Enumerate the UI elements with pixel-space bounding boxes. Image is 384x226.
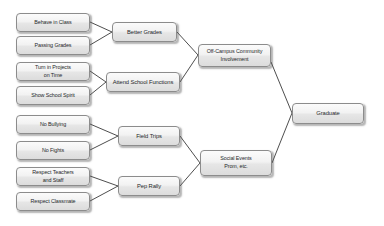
node-respect-classmate[interactable]: Respect Classmate <box>16 192 90 211</box>
node-graduate[interactable]: Graduate <box>292 103 364 124</box>
node-label: No Fights <box>19 147 87 153</box>
node-label-line2: Involvement <box>201 56 268 64</box>
node-label-line2: on Time <box>19 72 87 80</box>
node-label: Better Grades <box>115 29 174 35</box>
wire-respect-teachers-to-pep <box>90 176 118 186</box>
wire-offcampus-to-graduate <box>271 62 292 113</box>
node-label: Behave in Class <box>19 19 87 25</box>
node-label: Social Events <box>203 155 269 163</box>
wire-fights-to-field-trips <box>90 136 118 150</box>
node-label: No Bullying <box>19 121 87 127</box>
node-attend-school-functions[interactable]: Attend School Functions <box>106 72 180 92</box>
node-label: Attend School Functions <box>109 79 177 85</box>
flowchart-canvas: Behave in Class Passing Grades Turn in P… <box>0 0 384 226</box>
node-show-school-spirit[interactable]: Show School Spirit <box>16 86 90 105</box>
node-turn-in-projects-on-time[interactable]: Turn in Projects on Time <box>16 62 90 81</box>
node-no-fights[interactable]: No Fights <box>16 141 90 160</box>
node-behave-in-class[interactable]: Behave in Class <box>16 13 90 32</box>
node-label: Field Trips <box>121 133 177 139</box>
node-off-campus-community-involvement[interactable]: Off-Campus Community Involvement <box>198 44 271 67</box>
wire-better-grades-to-offcampus <box>177 32 198 55</box>
node-pep-rally[interactable]: Pep Rally <box>118 176 180 196</box>
wire-field-trips-to-social <box>180 136 200 163</box>
node-label-line2: and Staff <box>19 177 87 185</box>
wire-spirit-to-attend <box>90 82 106 95</box>
wire-pep-rally-to-social <box>180 163 200 186</box>
node-label: Off-Campus Community <box>201 48 268 56</box>
node-label: Respect Classmate <box>19 198 87 204</box>
wire-behave-to-better-grades <box>90 22 112 32</box>
wire-bullying-to-field-trips <box>90 124 118 136</box>
wire-social-to-graduate <box>272 113 292 163</box>
node-social-events-prom[interactable]: Social Events Prom, etc. <box>200 150 272 176</box>
wire-projects-to-attend <box>90 71 106 82</box>
wire-attend-to-offcampus <box>180 55 198 82</box>
node-label: Respect Teachers <box>19 169 87 177</box>
node-passing-grades[interactable]: Passing Grades <box>16 36 90 55</box>
node-no-bullying[interactable]: No Bullying <box>16 115 90 134</box>
node-label: Show School Spirit <box>19 92 87 98</box>
node-label-line2: Prom, etc. <box>203 163 269 171</box>
node-label: Passing Grades <box>19 42 87 48</box>
node-label: Graduate <box>295 110 361 116</box>
node-respect-teachers-and-staff[interactable]: Respect Teachers and Staff <box>16 167 90 186</box>
node-field-trips[interactable]: Field Trips <box>118 126 180 146</box>
wire-respect-classmate-to-pep <box>90 186 118 201</box>
node-label: Pep Rally <box>121 183 177 189</box>
node-label: Turn in Projects <box>19 64 87 72</box>
wire-passing-to-better-grades <box>90 32 112 45</box>
node-better-grades[interactable]: Better Grades <box>112 22 177 42</box>
